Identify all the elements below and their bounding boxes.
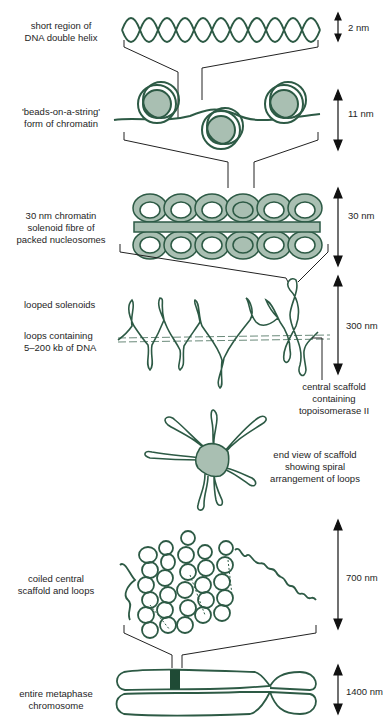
looped-solenoids	[118, 279, 330, 388]
chromosome-band-highlight	[170, 670, 180, 689]
size-2nm: 2 nm	[348, 22, 369, 34]
zoom-connector-4	[124, 625, 316, 668]
label-solenoid-fibre: 30 nm chromatin solenoid fibre of packed…	[6, 210, 116, 246]
size-11nm: 11 nm	[348, 108, 374, 120]
size-700nm: 700 nm	[346, 572, 378, 584]
beads-on-string	[114, 82, 320, 149]
label-metaphase-chromosome: entire metaphase chromosome	[6, 688, 106, 712]
label-central-scaffold: central scaffold containing topoisomeras…	[282, 381, 386, 417]
scaffold-pointer	[312, 338, 322, 380]
label-loops-dna: loops containing 5–200 kb of DNA	[6, 330, 110, 354]
end-view-scaffold	[145, 410, 266, 510]
label-dna-helix: short region of DNA double helix	[6, 20, 116, 44]
size-30nm: 30 nm	[348, 210, 374, 222]
label-looped-solenoids: looped solenoids	[6, 299, 114, 311]
size-300nm: 300 nm	[346, 320, 378, 332]
dna-double-helix	[122, 18, 320, 42]
label-beads-on-string: 'beads-on-a-string' form of chromatin	[6, 106, 116, 130]
size-1400nm: 1400 nm	[346, 686, 383, 698]
label-end-view: end view of scaffold showing spiral arra…	[262, 449, 368, 485]
solenoid-fibre	[124, 190, 322, 270]
label-coiled-scaffold: coiled central scaffold and loops	[6, 573, 106, 597]
coiled-scaffold-loops	[120, 531, 316, 638]
dimension-arrows	[334, 13, 342, 714]
metaphase-chromosome	[117, 670, 316, 716]
